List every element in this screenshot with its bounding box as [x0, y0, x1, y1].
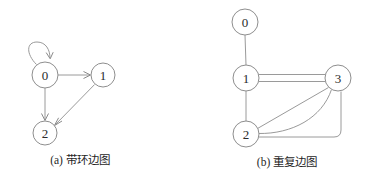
node-a-0[interactable]: 0 — [32, 62, 58, 88]
node-b-2-label: 2 — [243, 127, 250, 142]
node-b-3[interactable]: 3 — [325, 65, 351, 91]
node-b-1-label: 1 — [243, 71, 250, 86]
node-b-1[interactable]: 1 — [233, 65, 259, 91]
node-a-1-label: 1 — [100, 68, 107, 83]
caption-panel-a: (a) 带环边图 — [50, 154, 110, 167]
caption-panel-b: (b) 重复边图 — [257, 155, 317, 169]
panel-b-group: 0 1 3 2 (b) 重复边图 — [232, 9, 351, 169]
panel-a-group: 0 1 2 (a) 带环边图 — [29, 42, 115, 167]
edge-b-0-1 — [245, 35, 246, 65]
edge-a-0-to-1 — [58, 72, 91, 79]
node-a-1[interactable]: 1 — [91, 63, 115, 87]
node-a-2-label: 2 — [42, 126, 49, 141]
edge-b-2-3-arc — [259, 90, 332, 134]
edge-a-self-loop-0 — [29, 42, 54, 65]
edge-a-0-to-2 — [42, 88, 49, 121]
edge-b-1-3-parallel-pair — [259, 75, 325, 82]
edge-b-2-3-bottom-path — [259, 92, 341, 138]
node-b-3-label: 3 — [335, 71, 342, 86]
graph-figure-canvas: 0 1 2 (a) 带环边图 — [0, 0, 366, 179]
node-b-2[interactable]: 2 — [233, 121, 259, 147]
node-b-0[interactable]: 0 — [232, 9, 258, 35]
node-a-0-label: 0 — [42, 68, 49, 83]
figure-root: 0 1 2 (a) 带环边图 — [0, 0, 366, 179]
edge-a-1-to-2 — [54, 85, 94, 126]
node-a-2[interactable]: 2 — [33, 121, 57, 145]
node-b-0-label: 0 — [242, 15, 249, 30]
edge-b-2-3-diagonal — [258, 88, 329, 129]
